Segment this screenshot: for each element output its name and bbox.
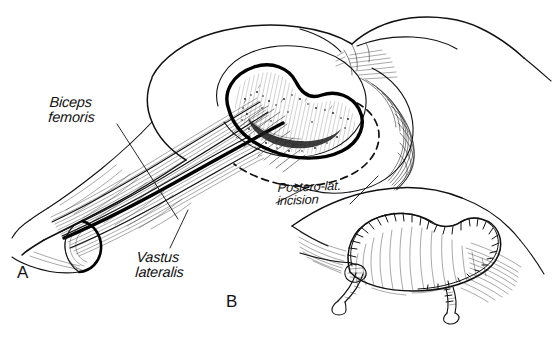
panel-b-left-hatching xyxy=(299,232,346,273)
flank-hatching xyxy=(336,50,397,79)
panel-label-b: B xyxy=(226,292,237,312)
surgical-illustration-figure: .o { fill:none; stroke:#111; stroke-widt… xyxy=(0,0,553,338)
label-vastus-lateralis: Vastus lateralis xyxy=(135,250,185,280)
buttock-shading xyxy=(360,78,414,190)
label-postero-lat-incision: Postero-lat. incision xyxy=(277,179,341,207)
panel-b-right-hatching xyxy=(461,243,521,302)
drain-tube-right xyxy=(444,287,459,324)
panel-label-a: A xyxy=(17,263,28,283)
label-biceps-femoris: Biceps femoris xyxy=(48,95,96,125)
leader-vastus-lateralis xyxy=(170,210,188,248)
illustration-canvas: .o { fill:none; stroke:#111; stroke-widt… xyxy=(0,0,553,338)
torso-outline xyxy=(152,17,551,81)
panel-b-group xyxy=(292,188,544,324)
panel-a-group xyxy=(12,17,551,273)
